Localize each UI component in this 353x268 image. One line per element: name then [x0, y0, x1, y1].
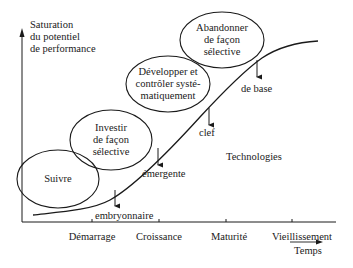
- strategy-text-line: matiquement: [141, 90, 196, 101]
- strategy-text-line: Développer et: [138, 66, 197, 77]
- y-axis: Saturation du potentiel de performance: [20, 19, 96, 222]
- stage-clef: clef: [199, 108, 215, 138]
- phase-label-maturite: Maturité: [211, 231, 247, 242]
- strategy-text-line: Abandonner: [196, 22, 248, 33]
- technology-lifecycle-diagram: Saturation du potentiel de performance D…: [0, 0, 353, 268]
- strategy-developper: Développer et contrôler systé- matiqueme…: [126, 56, 210, 112]
- stage-label: embryonnaire: [95, 210, 154, 221]
- phase-label-croissance: Croissance: [136, 231, 182, 242]
- y-axis-label-line-1: Saturation: [30, 19, 74, 30]
- strategy-text-line: contrôler systé-: [135, 78, 201, 89]
- stage-de-base: de base: [241, 60, 273, 94]
- stage-label: émergente: [142, 168, 186, 179]
- strategy-text-line: Suivre: [44, 173, 72, 184]
- strategy-text-line: Investir: [95, 122, 128, 133]
- y-axis-arrow-icon: [20, 28, 25, 37]
- y-axis-label-line-2: du potentiel: [30, 31, 80, 42]
- stage-label: clef: [199, 127, 215, 138]
- strategy-text-line: sélective: [93, 146, 130, 157]
- stage-label: de base: [241, 83, 273, 94]
- phase-label-vieillissement: Vieillissement: [272, 231, 332, 242]
- phase-label-demarrage: Démarrage: [69, 231, 116, 242]
- technologies-label: Technologies: [226, 151, 282, 162]
- x-axis-label: Temps: [294, 245, 322, 256]
- strategy-abandonner: Abandonner de façon sélective: [180, 12, 264, 68]
- stage-embryonnaire: embryonnaire: [95, 190, 154, 221]
- strategy-investir: Investir de façon sélective: [70, 110, 152, 170]
- x-axis: Démarrage Croissance Maturité Vieillisse…: [22, 219, 336, 256]
- strategy-text-line: de façon: [93, 134, 130, 145]
- strategy-text-line: sélective: [204, 46, 241, 57]
- strategy-suivre: Suivre: [17, 150, 99, 208]
- y-axis-label-line-3: de performance: [30, 43, 96, 54]
- strategy-text-line: de façon: [204, 34, 241, 45]
